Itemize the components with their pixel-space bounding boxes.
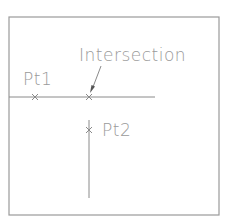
pt1-label: Pt1: [23, 69, 52, 89]
leader-arrow-icon: [90, 66, 101, 93]
cad-diagram: Intersection Pt1 Pt2: [0, 0, 229, 223]
intersection-label: Intersection: [79, 45, 186, 65]
pt2-label: Pt2: [102, 120, 131, 140]
